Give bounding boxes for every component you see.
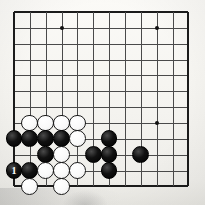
- stone-white-c4r8[interactable]: [53, 115, 70, 132]
- stone-white-c4r11[interactable]: [53, 162, 70, 179]
- stone-black-c2r11[interactable]: [21, 162, 38, 179]
- stone-black-c3r10[interactable]: [37, 146, 54, 163]
- stone-white-c4r12[interactable]: [53, 178, 70, 195]
- stone-white-c5r9[interactable]: [69, 130, 86, 147]
- stone-black-c4r9[interactable]: [53, 130, 70, 147]
- stone-white-c3r11[interactable]: [37, 162, 54, 179]
- stone-white-c5r11[interactable]: [69, 162, 86, 179]
- stone-white-c5r8[interactable]: [69, 115, 86, 132]
- stone-black-c6r10[interactable]: [85, 146, 102, 163]
- stone-white-c2r12[interactable]: [21, 178, 38, 195]
- stone-white-c4r10[interactable]: [53, 146, 70, 163]
- move-number-marker-1: 1: [6, 166, 23, 176]
